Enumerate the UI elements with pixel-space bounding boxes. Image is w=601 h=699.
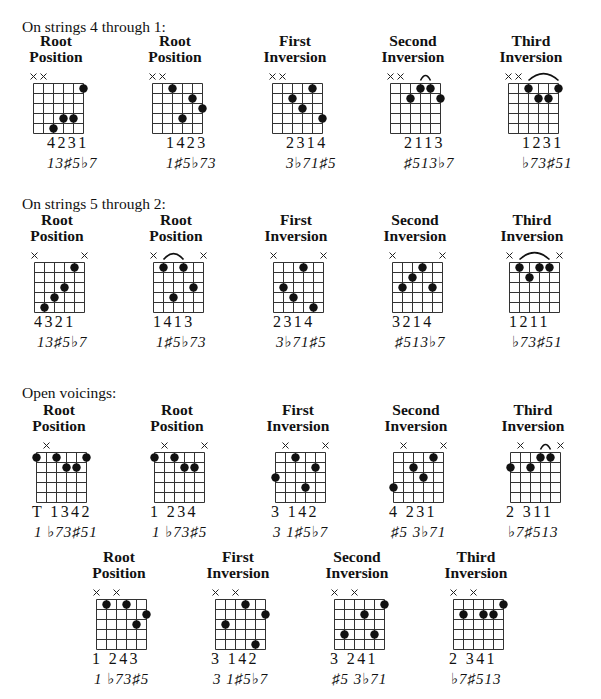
finger-dot [544, 94, 552, 102]
finger-dot [59, 114, 67, 122]
muted-string-x-icon [390, 253, 396, 259]
finger-dot [271, 473, 279, 481]
muted-string-x-icon [401, 443, 407, 449]
finger-dot [459, 610, 467, 618]
muted-string-x-icon [213, 590, 219, 596]
chord-title-line: Second [381, 402, 451, 418]
muted-string-x-icon [440, 253, 446, 259]
finger-dot [389, 483, 397, 491]
finger-dot [251, 640, 259, 648]
chord-title-line: Position [24, 418, 94, 434]
muted-string-x-icon [506, 74, 512, 80]
chord-title: SecondInversion [322, 549, 392, 581]
fingering-label: 1 234 [150, 503, 198, 521]
chord-title-line: Position [84, 565, 154, 581]
finger-dot [380, 600, 388, 608]
muted-string-x-icon [32, 253, 38, 259]
chord-degrees-label: 3 1♯5♭7 [213, 670, 268, 688]
chord-title-line: Root [24, 402, 94, 418]
finger-dot [360, 610, 368, 618]
finger-dot [340, 630, 348, 638]
muted-string-x-icon [280, 74, 286, 80]
chord-title-line: Inversion [441, 565, 511, 581]
chord-degrees-label: 3♭71♯5 [276, 333, 327, 351]
chord-degrees-label: ♭73♯51 [512, 333, 563, 351]
finger-dot [418, 263, 426, 271]
finger-dot [535, 263, 543, 271]
muted-string-x-icon [441, 443, 447, 449]
muted-string-x-icon [202, 443, 208, 449]
finger-dot [279, 283, 287, 291]
fingering-label: 3 142 [271, 503, 319, 521]
finger-dot [142, 610, 150, 618]
finger-dot [169, 293, 177, 301]
fingering-label: 1413 [153, 313, 195, 331]
muted-string-x-icon [233, 590, 239, 596]
finger-dot [40, 303, 48, 311]
chord-title: ThirdInversion [441, 549, 511, 581]
muted-string-x-icon [332, 590, 338, 596]
finger-dot [429, 453, 437, 461]
muted-string-x-icon [41, 74, 47, 80]
muted-string-x-icon [271, 253, 277, 259]
finger-dot [70, 263, 78, 271]
finger-dot [261, 610, 269, 618]
barre-arc [164, 254, 184, 260]
muted-string-x-icon [283, 443, 289, 449]
chord-degrees-label: 3 1♯5♭7 [273, 523, 328, 541]
chord-title-line: Inversion [378, 49, 448, 65]
chord-title: RootPosition [141, 212, 211, 244]
finger-dot [436, 94, 444, 102]
finger-dot [406, 94, 414, 102]
fingering-label: 4231 [47, 134, 89, 152]
chord-title-line: Inversion [263, 418, 333, 434]
chord-title-line: Third [441, 549, 511, 565]
chord-title-line: Position [140, 49, 210, 65]
chord-title-line: First [260, 33, 330, 49]
muted-string-x-icon [150, 74, 156, 80]
finger-dot [536, 453, 544, 461]
chord-title-line: First [203, 549, 273, 565]
finger-dot [318, 114, 326, 122]
section-title: Open voicings: [22, 384, 116, 402]
fingering-label: 1231 [522, 134, 564, 152]
finger-dot [122, 600, 130, 608]
chord-degrees-label: ♯513♭7 [395, 333, 446, 351]
finger-dot [170, 453, 178, 461]
chord-title-line: Position [142, 418, 212, 434]
chord-title-line: Root [141, 212, 211, 228]
muted-string-x-icon [270, 74, 276, 80]
finger-dot [221, 620, 229, 628]
finger-dot [72, 463, 80, 471]
finger-dot [82, 453, 90, 461]
chord-title-line: Inversion [497, 228, 567, 244]
finger-dot [179, 263, 187, 271]
finger-dot [198, 104, 206, 112]
finger-dot [408, 273, 416, 281]
muted-string-x-icon [162, 443, 168, 449]
finger-dot [416, 84, 424, 92]
chord-title-line: First [263, 402, 333, 418]
finger-dot [419, 473, 427, 481]
finger-dot [301, 483, 309, 491]
chord-title-line: Root [142, 402, 212, 418]
barre-arc [421, 76, 431, 81]
chord-degrees-label: ♭7♯513 [508, 523, 559, 541]
chord-title: FirstInversion [203, 549, 273, 581]
fingering-label: 2314 [273, 313, 315, 331]
chord-title-line: Inversion [498, 418, 568, 434]
finger-dot [288, 94, 296, 102]
chord-degrees-label: 1 ♭73♯5 [94, 670, 149, 688]
muted-string-x-icon [451, 590, 457, 596]
chord-degrees-label: ♯5 3♭71 [391, 523, 446, 541]
chord-title-line: Second [380, 212, 450, 228]
chord-title-line: Root [84, 549, 154, 565]
muted-string-x-icon [44, 443, 50, 449]
finger-dot [308, 84, 316, 92]
finger-dot [178, 114, 186, 122]
finger-dot [69, 114, 77, 122]
finger-dot [190, 463, 198, 471]
muted-string-x-icon [323, 443, 329, 449]
finger-dot [79, 84, 87, 92]
chord-title: FirstInversion [263, 402, 333, 434]
